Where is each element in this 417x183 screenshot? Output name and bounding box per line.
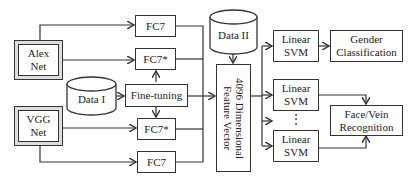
finetune-node: Fine-tuning <box>125 84 188 107</box>
vggnet-label: VGG Net <box>18 110 59 142</box>
svm1-node: Linear SVM <box>273 30 319 62</box>
fc7-top-node: FC7 <box>135 15 176 37</box>
svm3-node: Linear SVM <box>273 130 319 162</box>
gender-node: Gender Classification <box>330 30 403 62</box>
facevein-node: Face/Vein Recognition <box>330 105 403 136</box>
alexnet-label: Alex Net <box>18 44 59 76</box>
ellipsis: ⋮ <box>286 110 306 130</box>
feature-vector-label: 4096 Dimensional Feature Vector <box>221 66 246 170</box>
data1-label: Data I <box>67 88 116 110</box>
fc7star-top-node: FC7* <box>135 48 176 70</box>
svm2-node: Linear SVM <box>273 79 319 111</box>
fc7star-bottom-node: FC7* <box>137 118 176 140</box>
fc7-bottom-node: FC7 <box>137 151 176 173</box>
feature-vector-node: 4096 Dimensional Feature Vector <box>216 64 251 172</box>
data2-label: Data II <box>210 24 257 46</box>
vggnet-node: VGG Net <box>14 106 63 146</box>
connectors <box>0 0 417 183</box>
pipeline-diagram: Alex Net VGG Net FC7 FC7* Data I Fine-tu… <box>0 0 417 183</box>
alexnet-node: Alex Net <box>14 40 63 80</box>
